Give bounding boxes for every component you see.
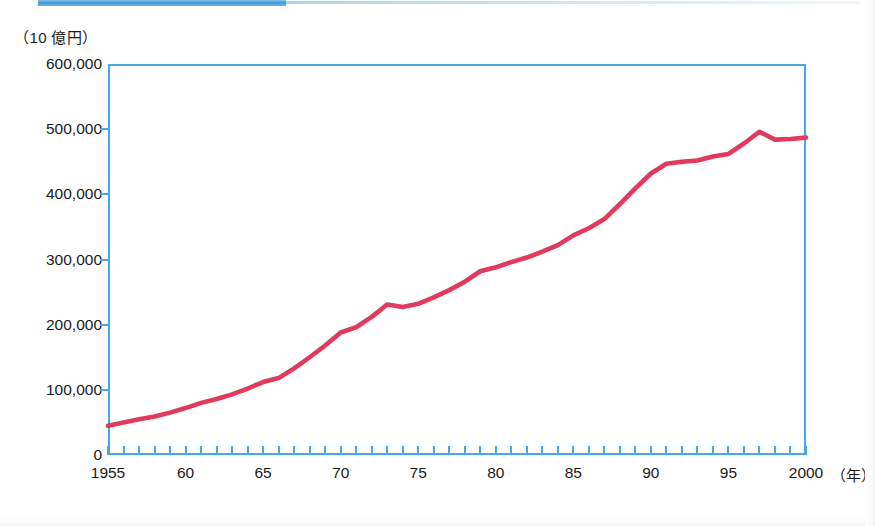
x-axis-tickmark (169, 446, 171, 455)
page-edge-right (865, 0, 875, 526)
y-axis-tick-label: 400,000 (2, 185, 102, 203)
x-axis-tickmark (526, 446, 528, 455)
x-axis-tickmark (650, 446, 652, 455)
x-axis-tickmark (557, 446, 559, 455)
x-axis-tick-label: 75 (410, 464, 427, 482)
x-axis-tick-label: 60 (177, 464, 194, 482)
x-axis-tickmark (324, 446, 326, 455)
x-axis-tickmark (495, 446, 497, 455)
plot-area (108, 64, 806, 455)
x-axis-tickmark (231, 446, 233, 455)
x-axis-tickmark (262, 446, 264, 455)
x-axis-tickmark (123, 446, 125, 455)
x-axis-tickmark (417, 446, 419, 455)
x-axis-tickmark (665, 446, 667, 455)
x-axis-tickmark (216, 446, 218, 455)
x-axis-tickmark (340, 446, 342, 455)
page-edge-bottom (0, 512, 875, 526)
y-axis-tick-label: 600,000 (2, 55, 102, 73)
x-axis-tickmark (479, 446, 481, 455)
y-axis-tick-label: 200,000 (2, 316, 102, 334)
x-axis-tick-label: 1955 (91, 464, 125, 482)
x-axis-tickmark (619, 446, 621, 455)
x-axis-tickmark (572, 446, 574, 455)
x-axis-tickmark (371, 446, 373, 455)
x-axis-tickmark (448, 446, 450, 455)
x-axis-tick-label: 65 (254, 464, 271, 482)
y-axis-tickmark (100, 389, 109, 391)
y-axis-tickmark (100, 324, 109, 326)
y-axis-tickmark (100, 259, 109, 261)
x-axis-tickmark (309, 446, 311, 455)
x-axis-tickmark (743, 446, 745, 455)
y-axis-tick-label: 500,000 (2, 120, 102, 138)
x-axis-tickmark (402, 446, 404, 455)
x-axis-tickmark (355, 446, 357, 455)
x-axis-tick-label: 85 (565, 464, 582, 482)
y-axis-tickmark (100, 193, 109, 195)
x-axis-tickmark (758, 446, 760, 455)
chart-figure: （10 億円） 0100,000200,000300,000400,000500… (0, 0, 875, 526)
y-axis-tick-label: 300,000 (2, 251, 102, 269)
y-axis-tick-group: 0100,000200,000300,000400,000500,000600,… (0, 0, 102, 526)
x-axis-tickmark (185, 446, 187, 455)
x-axis-tickmark (464, 446, 466, 455)
x-axis-tickmark (247, 446, 249, 455)
x-axis-tickmark (588, 446, 590, 455)
x-axis-tickmark (541, 446, 543, 455)
x-axis-tickmark (712, 446, 714, 455)
x-axis-tickmark (293, 446, 295, 455)
x-axis-tickmark (138, 446, 140, 455)
x-axis-tickmark (200, 446, 202, 455)
x-axis-tickmark (805, 446, 807, 455)
x-axis-tickmark (727, 446, 729, 455)
x-axis-tickmark (278, 446, 280, 455)
x-axis-tickmark (433, 446, 435, 455)
x-axis-tickmark (696, 446, 698, 455)
y-axis-tickmark (100, 128, 109, 130)
x-axis-tickmark (774, 446, 776, 455)
y-axis-tick-label: 0 (2, 446, 102, 464)
header-band-fade (286, 1, 861, 4)
x-axis-tickmark (634, 446, 636, 455)
x-axis-tick-label: 80 (487, 464, 504, 482)
x-axis-tickmark (789, 446, 791, 455)
x-axis-tick-label: 95 (720, 464, 737, 482)
x-axis-tickmark (681, 446, 683, 455)
x-axis-tick-label: 70 (332, 464, 349, 482)
x-axis-tickmark (510, 446, 512, 455)
x-axis-tickmark (386, 446, 388, 455)
x-axis-tickmark (154, 446, 156, 455)
x-axis-tick-label: 2000 (789, 464, 823, 482)
x-axis-tickmark (107, 446, 109, 455)
y-axis-tick-label: 100,000 (2, 381, 102, 399)
x-axis-tickmark (603, 446, 605, 455)
x-axis-tick-label: 90 (642, 464, 659, 482)
